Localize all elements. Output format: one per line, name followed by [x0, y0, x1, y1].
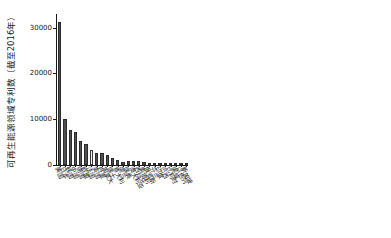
bar: [90, 150, 93, 165]
bar: [106, 155, 109, 165]
x-axis-tick-labels: 美国日本韩国中国德国欧盟法国英国丹麦加拿大瑞士意大利荷兰瑞典澳大利亚西班牙奥地利…: [56, 166, 256, 236]
bar: [74, 132, 77, 165]
bar: [95, 153, 98, 165]
y-axis-tick-labels: 0100002000030000: [16, 14, 52, 165]
y-axis-tick-label: 10000: [30, 115, 52, 123]
y-axis-line: [56, 14, 57, 165]
y-axis-tick: [53, 73, 56, 74]
bar: [100, 153, 103, 165]
y-axis-tick: [53, 119, 56, 120]
y-axis-tick-label: 20000: [30, 69, 52, 77]
plot-area: [56, 14, 188, 165]
bar: [84, 144, 87, 166]
y-axis-tick: [53, 28, 56, 29]
bar: [69, 130, 72, 165]
y-axis-title: 可再生能源领域专利数（截至2016年）: [4, 12, 16, 169]
chart-figure: 可再生能源领域专利数（截至2016年） 0100002000030000 美国日…: [0, 0, 391, 238]
bar: [58, 22, 61, 165]
bar: [79, 141, 82, 165]
bar: [111, 158, 114, 165]
y-axis-tick-label: 30000: [30, 24, 52, 32]
bar: [63, 119, 66, 165]
y-axis-tick-label: 0: [48, 161, 52, 169]
